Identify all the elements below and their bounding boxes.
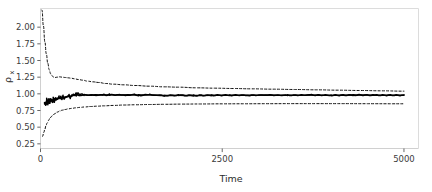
y-axis-title-symbol: ρ	[2, 77, 13, 83]
y-tick-label: 2.00	[16, 22, 35, 32]
y-axis-title-subscript: x	[8, 71, 16, 75]
y-tick-label: 1.50	[16, 56, 35, 66]
x-tick-label: 2500	[211, 154, 233, 164]
x-tick-label: 0	[38, 154, 43, 164]
y-tick-label: 1.75	[16, 39, 35, 49]
y-tick-label: 1.00	[16, 89, 35, 99]
x-axis-title: Time	[218, 173, 242, 184]
y-tick-label: 1.25	[16, 72, 35, 82]
chart-figure: 0.250.500.751.001.251.501.752.00 0250050…	[0, 0, 432, 192]
y-tick-label: 0.75	[16, 106, 35, 116]
chart-canvas: 0.250.500.751.001.251.501.752.00 0250050…	[0, 0, 432, 192]
y-tick-label: 0.50	[16, 122, 35, 132]
y-tick-label: 0.25	[16, 139, 35, 149]
x-tick-label: 5000	[393, 154, 415, 164]
